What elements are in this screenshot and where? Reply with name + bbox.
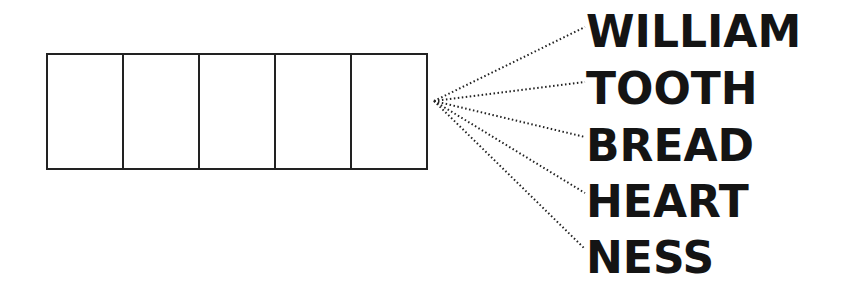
word-bread: BREAD bbox=[586, 124, 754, 168]
dotted-line-2 bbox=[434, 82, 585, 101]
word-tooth: TOOTH bbox=[586, 67, 758, 111]
dotted-line-5 bbox=[434, 101, 585, 249]
word-heart: HEART bbox=[586, 180, 749, 224]
dotted-line-1 bbox=[434, 27, 585, 101]
dotted-line-4 bbox=[434, 101, 585, 193]
dotted-line-3 bbox=[434, 101, 585, 137]
word-ness: NESS bbox=[586, 236, 714, 280]
word-william: WILLIAM bbox=[586, 10, 801, 54]
